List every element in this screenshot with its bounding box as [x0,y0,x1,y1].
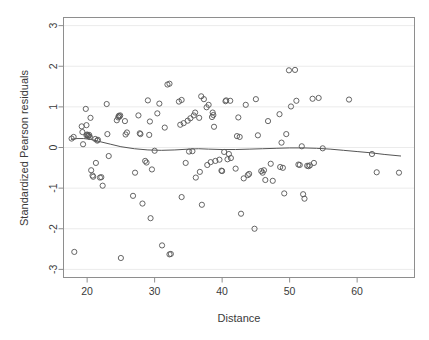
chart-container: 2030405060 3210-1-2-3 Distance Standardi… [0,0,429,340]
y-tick-label--1: -1 [47,183,59,192]
y-tick-label--3: -3 [47,265,59,274]
plot-background [0,0,429,340]
x-tick-label-30: 30 [149,285,161,297]
x-axis-label: Distance [218,312,261,324]
y-tick-label-1: 1 [47,104,59,110]
y-tick-label-2: 2 [47,63,59,69]
x-tick-label-50: 50 [284,285,296,297]
scatter-plot: 2030405060 3210-1-2-3 Distance Standardi… [0,0,429,340]
y-axis-label: Standardized Pearson residuals [18,70,30,226]
y-tick-label-0: 0 [47,144,59,150]
y-tick-label--2: -2 [47,224,59,233]
x-tick-label-20: 20 [81,285,93,297]
x-tick-label-40: 40 [216,285,228,297]
y-tick-label-3: 3 [47,23,59,29]
x-tick-label-60: 60 [351,285,363,297]
